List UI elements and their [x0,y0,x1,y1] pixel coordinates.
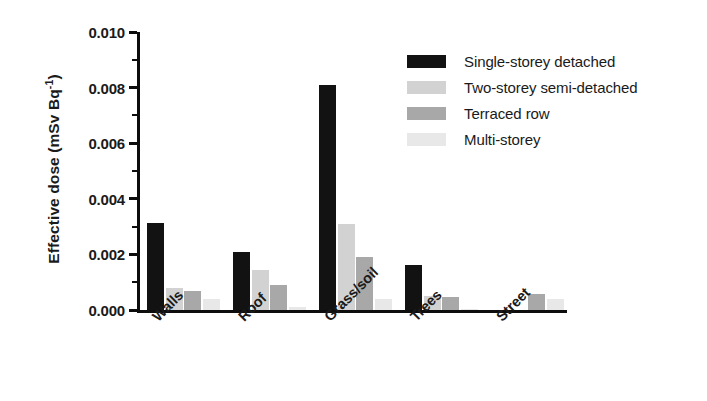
legend-swatch-icon [407,81,446,94]
chart-legend: Single-storey detachedTwo-storey semi-de… [407,48,638,152]
y-axis-title-superscript: -1 [43,80,55,90]
y-tick-major [129,142,137,145]
bar [461,309,478,310]
y-tick-label: 0.002 [88,246,125,263]
legend-label: Single-storey detached [464,53,615,70]
legend-label: Multi-storey [464,131,540,148]
bar [289,307,306,310]
legend-swatch-icon [407,133,446,146]
bar [203,299,220,310]
y-tick-label: 0.006 [88,135,125,152]
y-tick-label: 0.000 [88,302,125,319]
legend-swatch-icon [407,55,446,68]
bar [547,299,564,310]
y-tick-major [129,253,137,256]
bar [442,297,459,310]
legend-item: Single-storey detached [407,48,638,74]
y-axis-title-base: Effective dose (mSv Bq [45,89,62,263]
legend-label: Terraced row [464,105,550,122]
legend-item: Multi-storey [407,126,638,152]
y-tick-label: 0.004 [88,190,125,207]
y-axis-title-tail: ) [45,74,62,79]
legend-label: Two-storey semi-detached [464,79,638,96]
bar-chart-figure: Effective dose (mSv Bq-1) 0.0000.0020.00… [0,0,707,401]
y-axis-title: Effective dose (mSv Bq-1) [45,19,63,319]
bar [270,285,287,310]
bar [147,223,164,310]
legend-item: Two-storey semi-detached [407,74,638,100]
bar [319,85,336,310]
x-axis-category-labels: WallsRoofGrass/soilTreesStreet [137,313,567,393]
legend-swatch-icon [407,107,446,120]
y-tick-major [129,86,137,89]
bar [184,291,201,310]
y-tick-label: 0.010 [88,24,125,41]
legend-item: Terraced row [407,100,638,126]
bar [375,299,392,310]
y-tick-major [129,197,137,200]
y-tick-label: 0.008 [88,79,125,96]
y-tick-major [129,31,137,34]
y-tick-major [129,309,137,312]
